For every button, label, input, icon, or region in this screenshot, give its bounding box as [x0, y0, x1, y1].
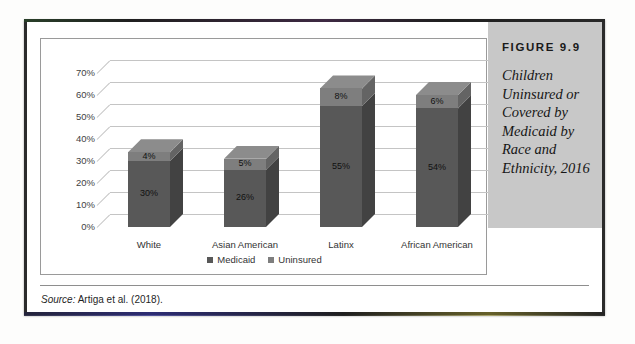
- x-axis-category-label: African American: [394, 239, 480, 250]
- x-axis-category-label: White: [106, 239, 192, 250]
- source-text: Artiga et al. (2018).: [75, 294, 162, 305]
- figure-caption-text: Children Uninsured or Covered by Medicai…: [502, 66, 590, 177]
- legend-entry: Uninsured: [268, 254, 321, 265]
- plot-area: 0%10%20%30%40%50%60%70% 30%4%White26%5%A…: [41, 39, 488, 276]
- bar-value-medicaid: 26%: [224, 192, 266, 202]
- figure-caption-panel: FIGURE 9.9 Children Uninsured or Covered…: [488, 22, 602, 228]
- grid-depth-line: [97, 82, 111, 96]
- legend-label: Uninsured: [278, 254, 321, 265]
- gridline: [110, 60, 494, 61]
- grid-depth-line: [97, 192, 111, 206]
- grid-depth-line: [97, 60, 111, 74]
- y-axis-tick-label: 0%: [53, 221, 95, 232]
- y-axis-tick-label: 70%: [53, 67, 95, 78]
- bar-value-uninsured: 8%: [320, 91, 362, 101]
- x-axis-category-label: Latinx: [298, 239, 384, 250]
- bar-value-uninsured: 6%: [416, 96, 458, 106]
- legend-label: Medicaid: [217, 254, 255, 265]
- grid-depth-line: [97, 170, 111, 184]
- bar-value-uninsured: 5%: [224, 158, 266, 168]
- scanned-page-background: 0%10%20%30%40%50%60%70% 30%4%White26%5%A…: [0, 0, 635, 344]
- grid-depth-line: [97, 148, 111, 162]
- source-label: Source:: [41, 294, 75, 305]
- bar-side-medicaid: [458, 95, 471, 227]
- y-axis-tick-label: 40%: [53, 133, 95, 144]
- chart-legend: MedicaidUninsured: [41, 254, 488, 265]
- y-axis: 0%10%20%30%40%50%60%70%: [47, 39, 95, 276]
- source-note: Source: Artiga et al. (2018).: [41, 294, 163, 305]
- y-axis-tick-label: 50%: [53, 111, 95, 122]
- grid-depth-line: [97, 104, 111, 118]
- y-axis-tick-label: 60%: [53, 89, 95, 100]
- grid-depth-line: [97, 214, 111, 228]
- bar-value-uninsured: 4%: [128, 151, 170, 161]
- y-axis-tick-label: 10%: [53, 199, 95, 210]
- x-axis-category-label: Asian American: [202, 239, 288, 250]
- legend-swatch-icon: [268, 257, 274, 263]
- grid-depth-line: [97, 126, 111, 140]
- bar-value-medicaid: 54%: [416, 162, 458, 172]
- bar-value-medicaid: 55%: [320, 161, 362, 171]
- y-axis-tick-label: 20%: [53, 177, 95, 188]
- bar-value-medicaid: 30%: [128, 188, 170, 198]
- bar-side-medicaid: [170, 148, 183, 227]
- legend-entry: Medicaid: [207, 254, 255, 265]
- bar-side-medicaid: [362, 93, 375, 227]
- y-axis-tick-label: 30%: [53, 155, 95, 166]
- figure-number: FIGURE 9.9: [502, 41, 590, 53]
- source-divider: [40, 285, 589, 286]
- chart-frame: 0%10%20%30%40%50%60%70% 30%4%White26%5%A…: [40, 38, 487, 275]
- legend-swatch-icon: [207, 257, 213, 263]
- figure-container: 0%10%20%30%40%50%60%70% 30%4%White26%5%A…: [24, 19, 605, 315]
